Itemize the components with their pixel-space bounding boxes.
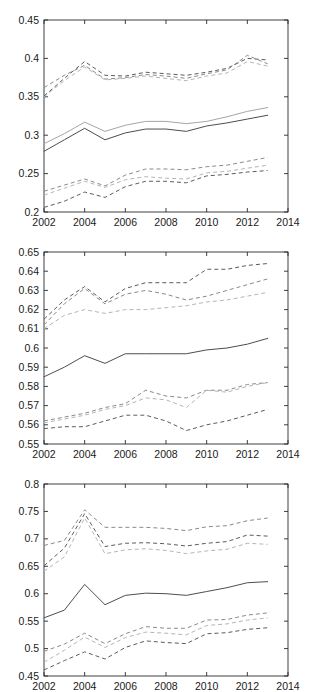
series-upper-band-a bbox=[44, 264, 268, 320]
series-center-line-dark bbox=[44, 115, 268, 151]
y-tick-label: 0.25 bbox=[19, 167, 40, 179]
chart-panel-2: 0.550.560.570.580.590.60.610.620.630.640… bbox=[0, 232, 313, 464]
x-tick-label: 2008 bbox=[154, 216, 178, 228]
y-tick-label: 0.4 bbox=[24, 52, 39, 64]
x-tick-label: 2014 bbox=[276, 680, 300, 692]
y-tick-label: 0.57 bbox=[19, 399, 40, 411]
y-tick-label: 0.61 bbox=[19, 322, 40, 334]
x-tick-label: 2012 bbox=[236, 216, 260, 228]
y-tick-label: 0.8 bbox=[24, 478, 39, 490]
chart-panel-3: 0.450.50.550.60.650.70.750.8200220042006… bbox=[0, 464, 313, 692]
series-upper-band-a bbox=[44, 58, 268, 96]
y-tick-label: 0.35 bbox=[19, 90, 40, 102]
y-tick-label: 0.65 bbox=[19, 246, 40, 258]
x-tick-label: 2002 bbox=[32, 680, 56, 692]
y-tick-label: 0.75 bbox=[19, 505, 40, 517]
multi-panel-line-chart-figure: 0.20.250.30.350.40.452002200420062008201… bbox=[0, 0, 313, 692]
series-lower-band-c bbox=[44, 628, 268, 670]
x-tick-label: 2008 bbox=[154, 680, 178, 692]
y-tick-label: 0.59 bbox=[19, 361, 40, 373]
x-tick-label: 2008 bbox=[154, 448, 178, 460]
series-lower-band-a bbox=[44, 383, 268, 421]
series-lower-band-a bbox=[44, 157, 268, 191]
series-upper-band-c bbox=[44, 292, 268, 328]
y-tick-label: 0.65 bbox=[19, 560, 40, 572]
plot-frame bbox=[44, 484, 288, 676]
y-tick-label: 0.62 bbox=[19, 303, 40, 315]
x-tick-label: 2006 bbox=[114, 216, 138, 228]
y-tick-label: 0.64 bbox=[19, 265, 40, 277]
y-tick-label: 0.56 bbox=[19, 418, 40, 430]
series-lower-band-b bbox=[44, 618, 268, 662]
x-tick-label: 2006 bbox=[114, 448, 138, 460]
series-center-line bbox=[44, 582, 268, 618]
y-tick-label: 0.6 bbox=[24, 587, 39, 599]
series-lower-band-c bbox=[44, 171, 268, 208]
x-tick-label: 2012 bbox=[236, 680, 260, 692]
series-upper-band-b bbox=[44, 279, 268, 325]
x-tick-label: 2004 bbox=[73, 216, 97, 228]
x-tick-label: 2006 bbox=[114, 680, 138, 692]
series-center-line-light bbox=[44, 108, 268, 144]
y-tick-label: 0.55 bbox=[19, 615, 40, 627]
x-tick-label: 2014 bbox=[276, 216, 300, 228]
y-tick-label: 0.63 bbox=[19, 284, 40, 296]
series-center-line bbox=[44, 338, 268, 376]
y-tick-label: 0.58 bbox=[19, 380, 40, 392]
x-tick-label: 2010 bbox=[195, 448, 219, 460]
x-tick-label: 2004 bbox=[73, 448, 97, 460]
y-tick-label: 0.45 bbox=[19, 14, 40, 26]
x-tick-label: 2010 bbox=[195, 216, 219, 228]
x-tick-label: 2014 bbox=[276, 448, 300, 460]
plot-frame bbox=[44, 20, 288, 212]
y-tick-label: 0.3 bbox=[24, 129, 39, 141]
series-lower-band-a bbox=[44, 613, 268, 651]
x-tick-label: 2002 bbox=[32, 448, 56, 460]
y-tick-label: 0.6 bbox=[24, 342, 39, 354]
y-tick-label: 0.5 bbox=[24, 642, 39, 654]
series-upper-band-a bbox=[44, 510, 268, 546]
series-lower-band-c bbox=[44, 409, 268, 430]
plot-frame bbox=[44, 252, 288, 444]
x-tick-label: 2002 bbox=[32, 216, 56, 228]
x-tick-label: 2004 bbox=[73, 680, 97, 692]
series-lower-band-b bbox=[44, 165, 268, 195]
y-tick-label: 0.7 bbox=[24, 532, 39, 544]
x-tick-label: 2010 bbox=[195, 680, 219, 692]
chart-panel-1: 0.20.250.30.350.40.452002200420062008201… bbox=[0, 0, 313, 232]
x-tick-label: 2012 bbox=[236, 448, 260, 460]
